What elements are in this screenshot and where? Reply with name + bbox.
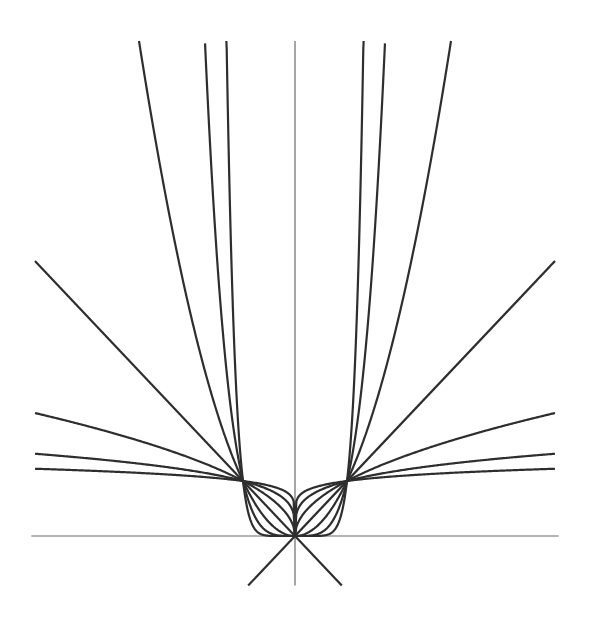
diagonal-line-0 bbox=[248, 536, 295, 586]
diagonal-line-1 bbox=[295, 536, 342, 586]
power-curves-plot bbox=[0, 0, 591, 625]
